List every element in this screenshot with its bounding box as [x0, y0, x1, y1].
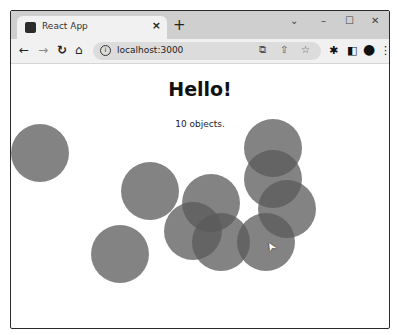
tab-strip: React App × + ⌄ – ☐ ✕	[11, 11, 389, 39]
tab-search-chevron-icon[interactable]: ⌄	[290, 15, 298, 26]
maximize-button[interactable]: ☐	[345, 15, 354, 26]
object-count-text: 10 objects.	[11, 119, 389, 129]
bookmark-star-icon[interactable]: ☆	[301, 44, 310, 55]
tab-title: React App	[42, 21, 88, 31]
menu-kebab-icon[interactable]: ⋮	[380, 44, 390, 57]
back-button[interactable]: ←	[19, 43, 29, 57]
new-tab-button[interactable]: +	[173, 16, 186, 34]
close-window-button[interactable]: ✕	[371, 15, 379, 26]
circle-object[interactable]	[91, 225, 149, 283]
browser-toolbar: ← → ↻ ⌂ i localhost:3000 ⧉ ⇪ ☆ ✱ ◧ ● ⋮	[11, 39, 389, 64]
tab-close-icon[interactable]: ×	[152, 19, 161, 32]
side-panel-icon[interactable]: ◧	[347, 44, 357, 57]
react-favicon-icon	[25, 22, 36, 33]
browser-window: React App × + ⌄ – ☐ ✕ ← → ↻ ⌂ i localhos…	[10, 10, 390, 329]
url-text[interactable]: localhost:3000	[117, 45, 183, 55]
page-heading: Hello!	[11, 78, 389, 100]
install-app-icon[interactable]: ⧉	[259, 44, 266, 56]
reload-button[interactable]: ↻	[57, 43, 67, 57]
page-content: Hello! 10 objects. ➤	[11, 64, 389, 329]
home-button[interactable]: ⌂	[75, 43, 83, 57]
circle-object[interactable]	[11, 124, 69, 182]
extensions-icon[interactable]: ✱	[329, 44, 338, 57]
profile-avatar-icon[interactable]: ●	[363, 41, 375, 57]
site-info-icon[interactable]: i	[100, 45, 111, 56]
circle-object[interactable]	[237, 213, 295, 271]
address-bar[interactable]: i localhost:3000 ⧉ ⇪ ☆	[93, 42, 321, 60]
minimize-button[interactable]: –	[321, 15, 326, 26]
tab-react-app[interactable]: React App ×	[17, 16, 167, 39]
forward-button[interactable]: →	[38, 43, 48, 57]
share-icon[interactable]: ⇪	[280, 44, 288, 55]
